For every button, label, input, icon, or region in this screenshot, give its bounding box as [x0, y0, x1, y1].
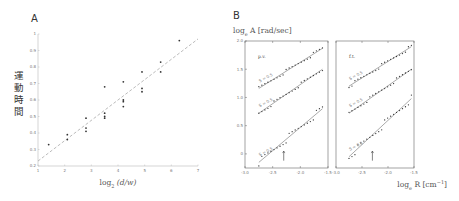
data-point [310, 57, 311, 58]
data-point [104, 86, 106, 88]
x-tick-label: 3 [90, 168, 93, 173]
data-point [282, 74, 283, 75]
x-tick-label: -2.5 [358, 170, 366, 175]
data-point [313, 52, 314, 53]
data-point [378, 68, 379, 69]
data-point [390, 85, 391, 86]
data-point [276, 147, 277, 148]
data-point [66, 139, 68, 141]
data-point [310, 121, 311, 122]
data-point [288, 133, 289, 134]
label-part: R [cm [412, 180, 437, 189]
data-point [322, 70, 323, 71]
figure-canvas: A12345670.20.30.40.50.60.70.80.91運動時間log… [0, 0, 459, 201]
data-point [402, 108, 403, 109]
y-tick-label: 0.4 [30, 130, 37, 135]
data-point [104, 117, 106, 119]
data-point [279, 146, 280, 147]
data-point [48, 144, 50, 146]
panel-b-label: B [233, 10, 240, 21]
data-point [258, 165, 259, 166]
data-point [393, 57, 394, 58]
y-tick-label: 0.6 [30, 97, 37, 102]
data-point [408, 71, 409, 72]
x-tick-label: -2.0 [296, 170, 304, 175]
panel-a: A12345670.20.30.40.50.60.70.80.91運動時間log… [14, 13, 200, 189]
x-tick-label: 1 [37, 168, 40, 173]
data-point [295, 129, 296, 130]
data-point [122, 106, 124, 108]
y-tick-label: 0.8 [30, 64, 37, 69]
y-tick-label: 0.5 [237, 123, 244, 128]
fit-line [38, 39, 198, 161]
data-point [381, 129, 382, 130]
data-point [104, 112, 106, 114]
x-tick-label: 4 [117, 168, 120, 173]
data-point [387, 60, 388, 61]
data-point [369, 73, 370, 74]
data-point [360, 105, 361, 106]
data-point [354, 80, 355, 81]
data-point [396, 56, 397, 57]
x-tick-label: 6 [170, 168, 173, 173]
panel-b-subplot-pv: -3.0-2.5-2.0-1.500.51.01.52.0p.v.S = 0.5… [237, 38, 333, 175]
data-point [122, 101, 124, 103]
data-point [301, 81, 302, 82]
y-tick-label: 0.5 [30, 114, 37, 119]
data-point [316, 50, 317, 51]
data-point [292, 131, 293, 132]
data-point [122, 81, 124, 83]
data-point [354, 154, 355, 155]
data-point [372, 71, 373, 72]
data-point [387, 86, 388, 87]
data-point [178, 40, 180, 42]
data-point [369, 96, 370, 97]
y-tick-label: 1.5 [237, 67, 244, 72]
data-point [304, 124, 305, 125]
data-point [363, 103, 364, 104]
data-point [313, 75, 314, 76]
data-point [258, 113, 259, 114]
data-point [351, 156, 352, 157]
data-point [307, 123, 308, 124]
figure: A12345670.20.30.40.50.60.70.80.91運動時間log… [0, 0, 459, 201]
y-tick-label: 0.3 [30, 147, 37, 152]
data-point [366, 102, 367, 103]
b-x-axis-label: loge R [cm−1] [397, 179, 447, 191]
y-axis-label-char: 間 [14, 106, 24, 117]
x-tick-label: 2 [63, 168, 66, 173]
data-point [363, 76, 364, 77]
y-tick-label: 0.9 [30, 48, 37, 53]
data-point [381, 63, 382, 64]
x-tick-label: 7 [197, 168, 200, 173]
y-tick-label: 0.2 [30, 163, 37, 168]
y-tick-label: 0.7 [30, 81, 37, 86]
subplot-title: p.v. [258, 54, 266, 59]
data-point [141, 88, 143, 90]
data-point [261, 85, 262, 86]
curve-tag: S = 0.5 [258, 72, 274, 84]
data-point [393, 114, 394, 115]
curve-tag: S = 0.5 [348, 69, 364, 81]
data-point [411, 45, 412, 46]
data-point [279, 76, 280, 77]
data-point [273, 149, 274, 150]
data-point [307, 78, 308, 79]
data-point [319, 49, 320, 50]
y-tick-label: 2.0 [237, 38, 244, 43]
data-point [160, 61, 162, 63]
data-point [104, 116, 106, 118]
data-point [285, 69, 286, 70]
data-point [285, 142, 286, 143]
data-point [384, 119, 385, 120]
data-point [313, 119, 314, 120]
data-point [316, 110, 317, 111]
data-point [384, 88, 385, 89]
data-point [375, 133, 376, 134]
data-point [402, 74, 403, 75]
data-point [258, 86, 259, 87]
data-point [357, 79, 358, 80]
data-point [122, 99, 124, 101]
data-point [319, 72, 320, 73]
data-point [408, 104, 409, 105]
